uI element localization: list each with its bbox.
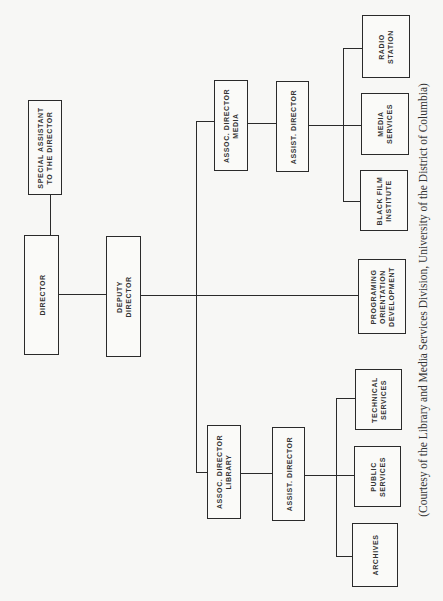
connector-line: [196, 121, 214, 122]
connector-line: [343, 201, 360, 202]
node-special-assistant: SPECIAL ASSISTANT TO THE DIRECTOR: [28, 100, 62, 195]
node-public-services: PUBLIC SERVICES: [354, 446, 401, 507]
node-label: ASSOC. DIRECTOR LIBRARY: [215, 435, 233, 509]
connector-line: [50, 195, 51, 235]
connector-line: [336, 556, 352, 557]
node-technical-services: TECHNICAL SERVICES: [355, 369, 402, 430]
node-black-film-institute: BLACK FILM INSTITUTE: [360, 170, 408, 231]
node-label: ARCHIVES: [371, 535, 380, 576]
connector-line: [343, 48, 362, 49]
node-assist-director-media: ASSIST. DIRECTOR: [276, 81, 309, 172]
node-archives: ARCHIVES: [352, 523, 398, 587]
figure-caption: (Courtesy of the Library and Media Servi…: [417, 83, 429, 517]
connector-line: [305, 475, 354, 476]
node-media-services: MEDIA SERVICES: [361, 93, 409, 155]
node-label: ASSOC. DIRECTOR MEDIA: [222, 88, 240, 162]
connector-line: [336, 398, 355, 399]
node-assist-director-library: ASSIST. DIRECTOR: [272, 427, 305, 521]
node-label: BLACK FILM INSTITUTE: [375, 176, 393, 225]
connector-line: [248, 123, 276, 124]
connector-line: [59, 294, 106, 295]
node-radio-station: RADIO STATION: [362, 15, 410, 78]
connector-line: [141, 295, 358, 296]
node-label: ASSIST. DIRECTOR: [288, 89, 297, 163]
node-label: ASSIST. DIRECTOR: [284, 437, 293, 511]
connector-line: [309, 125, 361, 126]
node-label: PUBLIC SERVICES: [369, 456, 387, 496]
node-label: PROGRAMING ORIENTATION DEVELOPMENT: [369, 267, 396, 327]
connector-line: [196, 472, 207, 473]
node-director: DIRECTOR: [24, 235, 59, 355]
node-assoc-director-library: ASSOC. DIRECTOR LIBRARY: [207, 425, 241, 519]
node-programing: PROGRAMING ORIENTATION DEVELOPMENT: [358, 259, 406, 334]
node-label: DEPUTY DIRECTOR: [115, 276, 133, 317]
node-label: TECHNICAL SERVICES: [370, 377, 388, 423]
connector-line: [196, 121, 197, 473]
connector-line: [241, 473, 272, 474]
node-label: MEDIA SERVICES: [376, 104, 394, 144]
connector-line: [336, 398, 337, 556]
node-deputy-director: DEPUTY DIRECTOR: [106, 236, 141, 357]
node-assoc-director-media: ASSOC. DIRECTOR MEDIA: [214, 80, 248, 171]
node-label: RADIO STATION: [377, 30, 395, 64]
node-label: DIRECTOR: [37, 274, 46, 315]
connector-line: [343, 48, 344, 201]
node-label: SPECIAL ASSISTANT TO THE DIRECTOR: [36, 107, 54, 188]
